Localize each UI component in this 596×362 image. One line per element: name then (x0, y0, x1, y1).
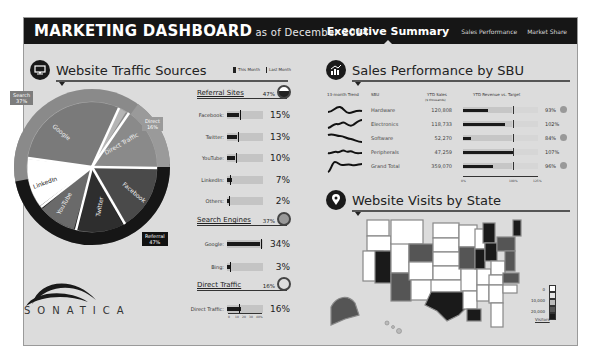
group-referral-sites: Referral Sites 47% (197, 87, 287, 99)
group-search-engines: Search Engines 37% (197, 214, 287, 226)
group-pct: 16% (263, 283, 275, 289)
logo-swoosh-icon (14, 270, 114, 306)
col-ytd-sales: YTD Sales (427, 93, 447, 97)
sales-section-title: Sales Performance by SBU (352, 63, 524, 78)
group-pct: 37% (263, 218, 275, 224)
bar-row-linkedin: LinkedIn: 7% (170, 175, 290, 185)
tab-sales-performance[interactable]: Sales Performance (461, 28, 517, 35)
gauge-icon (277, 277, 291, 291)
monitor-icon (30, 60, 50, 80)
visits-section-title: Website Visits by State (352, 193, 501, 208)
sbu-row-hardware: Hardware 120,808 93% (327, 103, 572, 117)
pie-svg: Google Direct Traffic Facebook Twitter Y… (12, 87, 172, 247)
traffic-section-header: Website Traffic Sources (30, 60, 207, 80)
sbu-row-grand-total: Grand Total 359,070 96% (327, 159, 572, 173)
map-pin-icon (326, 190, 346, 210)
traffic-pie-chart: Google Direct Traffic Facebook Twitter Y… (12, 87, 172, 247)
legend-caption: Visitors (535, 317, 550, 322)
sonatica-logo: SONATICA (14, 270, 144, 320)
sales-section-header: Sales Performance by SBU (326, 60, 524, 80)
legend-value-10000: 10,000 (525, 298, 545, 303)
visits-section-header: Website Visits by State (326, 190, 501, 210)
status-indicator (560, 162, 567, 169)
tab-market-share[interactable]: Market Share (527, 28, 567, 35)
app-title: MARKETING DASHBOARDas of December 2014 (34, 22, 369, 40)
group-name: Direct Traffic (197, 281, 241, 289)
sparkline (327, 117, 363, 131)
status-indicator (560, 106, 567, 113)
legend-this-month: This Month (233, 67, 260, 73)
group-name: Referral Sites (197, 89, 244, 97)
legend-value-0: 0 (525, 287, 545, 292)
bar-row-youtube: YouTube: 10% (170, 153, 290, 163)
visits-title-rule (352, 210, 570, 212)
sbu-row-software: Software 52,270 84% (327, 131, 572, 145)
sales-title-rule (352, 80, 570, 82)
pie-label-direct: Direct 16% (142, 117, 163, 131)
legend-value-20000: 20,000 (525, 309, 545, 314)
logo-text: SONATICA (24, 305, 131, 316)
tab-executive-summary[interactable]: Executive Summary (327, 25, 450, 38)
chart-icon (326, 60, 346, 80)
dashboard-title: MARKETING DASHBOARD (34, 22, 252, 40)
revenue-axis (463, 176, 538, 177)
traffic-section-title: Website Traffic Sources (56, 63, 207, 78)
col-trend: 13-month Trend (327, 93, 359, 97)
col-sbu: SBU (371, 93, 379, 97)
col-revenue-vs-target: YTD Revenue vs. Target (473, 93, 520, 97)
sparkline (327, 145, 363, 159)
status-indicator (560, 134, 567, 141)
col-ytd-sales-unit: ($ thousands) (425, 98, 446, 102)
bar-row-twitter: Twitter: 13% (170, 132, 290, 142)
traffic-title-rule (56, 80, 288, 82)
bar-row-facebook: Facebook: 15% (170, 110, 290, 120)
bar-row-others: Others: 2% (170, 196, 290, 206)
top-bar: MARKETING DASHBOARDas of December 2014 E… (24, 18, 577, 44)
legend-last-month: Last Month (266, 67, 291, 73)
group-direct-traffic: Direct Traffic 16% (197, 279, 287, 291)
sparkline (327, 103, 363, 117)
sparkline (327, 131, 363, 145)
bar-row-google: Google: 34% (170, 239, 290, 249)
traffic-legend: This Month Last Month (233, 67, 291, 73)
group-pct: 47% (263, 91, 275, 97)
us-choropleth-map (327, 215, 527, 340)
pie-label-referral: Referral 47% (142, 232, 168, 246)
sbu-row-electronics: Electronics 118,733 102% (327, 117, 572, 131)
pie-label-search: Search 37% (10, 91, 33, 105)
bar-row-bing: Bing: 3% (170, 262, 290, 272)
sparkline (327, 159, 363, 173)
gauge-icon (277, 85, 291, 99)
nav-tabs: Executive Summary Sales Performance Mark… (327, 18, 567, 44)
gauge-icon (277, 212, 291, 226)
group-name: Search Engines (197, 216, 251, 224)
bar-scale: 0 10 20 30 40% (228, 312, 262, 320)
sbu-row-peripherals: Peripherals 47,259 107% (327, 145, 572, 159)
